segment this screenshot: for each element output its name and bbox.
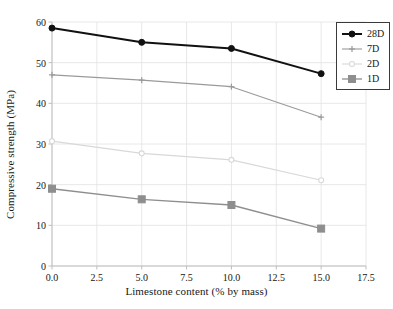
chart-legend: 28D7D2D1D: [336, 22, 390, 90]
legend-label: 1D: [367, 74, 379, 84]
data-point: [50, 139, 55, 144]
legend-label: 7D: [367, 44, 379, 54]
legend-marker-glyph: [349, 75, 356, 82]
legend-item-1d[interactable]: 1D: [341, 71, 384, 86]
legend-marker-glyph: [349, 31, 355, 37]
data-point: [228, 202, 235, 209]
data-point: [138, 196, 145, 203]
x-tick-label: 10.0: [223, 272, 241, 283]
data-point: [139, 151, 144, 156]
data-point: [49, 185, 56, 192]
x-tick-label: 0.0: [46, 272, 59, 283]
data-point: [318, 225, 325, 232]
x-tick-label: 2.5: [91, 272, 104, 283]
y-tick-label: 0: [41, 261, 46, 272]
legend-marker-1d-icon: [341, 73, 363, 85]
plot-area: [0, 0, 393, 309]
data-point: [318, 71, 324, 77]
legend-marker-2d-icon: [341, 58, 363, 70]
legend-marker-glyph: [350, 61, 355, 66]
data-point: [139, 39, 145, 45]
data-point: [229, 157, 234, 162]
legend-marker-glyph: [349, 46, 355, 52]
x-axis-label: Limestone content (% by mass): [0, 285, 393, 297]
y-axis-label: Compressive strength (MPa): [0, 0, 20, 309]
data-point: [319, 178, 324, 183]
legend-item-2d[interactable]: 2D: [341, 56, 384, 71]
legend-label: 2D: [367, 59, 379, 69]
y-tick-label: 60: [36, 17, 46, 28]
y-tick-label: 50: [36, 57, 46, 68]
x-tick-label: 7.5: [180, 272, 193, 283]
legend-marker-28d-icon: [341, 28, 363, 40]
legend-marker-7d-icon: [341, 43, 363, 55]
data-point: [228, 45, 234, 51]
y-tick-label: 40: [36, 98, 46, 109]
x-tick-label: 15.0: [312, 272, 330, 283]
y-tick-label: 20: [36, 179, 46, 190]
legend-item-28d[interactable]: 28D: [341, 26, 384, 41]
x-tick-label: 17.5: [357, 272, 375, 283]
legend-item-7d[interactable]: 7D: [341, 41, 384, 56]
y-tick-label: 10: [36, 220, 46, 231]
legend-label: 28D: [367, 29, 384, 39]
x-tick-label: 5.0: [135, 272, 148, 283]
y-tick-label: 30: [36, 139, 46, 150]
x-tick-label: 12.5: [268, 272, 286, 283]
chart-figure: Compressive strength (MPa) Limestone con…: [0, 0, 393, 309]
data-point: [49, 25, 55, 31]
